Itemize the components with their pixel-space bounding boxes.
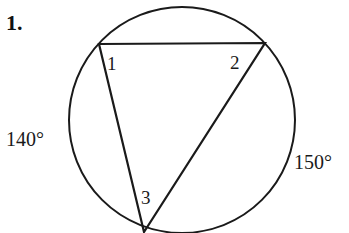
inscribed-triangle-diagram: 1. 1 2 3 140° 150° [0, 0, 349, 233]
angle-label-1: 1 [107, 53, 117, 74]
arc-measure-label-150: 150° [294, 151, 332, 173]
arc-measure-label-140: 140° [6, 128, 44, 150]
circumscribed-circle [69, 7, 295, 233]
inscribed-triangle [99, 43, 265, 232]
angle-label-2: 2 [230, 52, 240, 73]
angle-label-3: 3 [141, 187, 151, 208]
problem-number: 1. [6, 10, 23, 35]
